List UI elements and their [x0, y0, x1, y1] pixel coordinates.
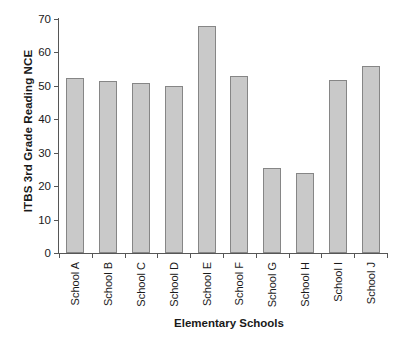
bar-slot — [125, 19, 158, 253]
y-axis-tick-label: 0 — [45, 247, 51, 259]
bar-slot — [190, 19, 223, 253]
bar-chart: ITBS 3rd Grade Reading NCE 7060504030201… — [0, 0, 408, 340]
x-axis-category-label: School I — [332, 262, 344, 302]
x-label-slot: School G — [256, 262, 289, 312]
bar-slot — [321, 19, 354, 253]
x-axis-category-label: School D — [168, 262, 180, 307]
x-axis-tick — [190, 253, 191, 258]
y-axis-tick-label: 70 — [38, 13, 51, 25]
x-label-slot: School D — [157, 262, 190, 312]
bar-slot — [256, 19, 289, 253]
x-axis-tick — [256, 253, 257, 258]
x-axis-tick — [92, 253, 93, 258]
bar-slot — [157, 19, 190, 253]
bar — [132, 83, 150, 253]
x-axis-tick — [157, 253, 158, 258]
x-axis-title: Elementary Schools — [0, 317, 408, 329]
y-axis-tick-label: 30 — [38, 147, 51, 159]
x-axis-tick — [289, 253, 290, 258]
y-axis-tick-label: 10 — [38, 214, 51, 226]
x-axis-category-label: School H — [299, 262, 311, 307]
x-axis-category-label: School B — [102, 262, 114, 306]
y-axis-tick-label: 60 — [38, 46, 51, 58]
x-label-slot: School J — [354, 262, 387, 312]
y-axis-tick-label: 20 — [38, 180, 51, 192]
x-label-slot: School C — [125, 262, 158, 312]
x-axis-tick — [387, 253, 388, 258]
x-axis-category-label: School J — [365, 262, 377, 304]
plot-area: 706050403020100 — [59, 19, 387, 253]
y-axis-tick-label: 40 — [38, 113, 51, 125]
x-label-slot: School A — [59, 262, 92, 312]
bar — [66, 78, 84, 254]
x-axis-tick-labels: School ASchool BSchool CSchool DSchool E… — [59, 262, 387, 312]
x-label-slot: School H — [289, 262, 322, 312]
y-axis-title: ITBS 3rd Grade Reading NCE — [22, 11, 34, 251]
x-axis-tick — [223, 253, 224, 258]
x-axis-tick — [354, 253, 355, 258]
x-axis-tick — [321, 253, 322, 258]
bar — [329, 80, 347, 253]
bar-slot — [354, 19, 387, 253]
bar — [296, 173, 314, 253]
bar — [99, 81, 117, 253]
bar-slot — [92, 19, 125, 253]
bar-slot — [289, 19, 322, 253]
x-axis-category-label: School F — [233, 262, 245, 305]
bar — [198, 26, 216, 253]
x-axis-category-label: School C — [135, 262, 147, 307]
bar-slot — [59, 19, 92, 253]
x-axis-category-label: School A — [69, 262, 81, 305]
bar-series — [59, 19, 387, 253]
bar — [362, 66, 380, 253]
bar-slot — [223, 19, 256, 253]
y-axis-tick-label: 50 — [38, 80, 51, 92]
bar — [263, 168, 281, 253]
x-axis-category-label: School G — [266, 262, 278, 307]
x-axis-tick — [125, 253, 126, 258]
x-axis-tick — [59, 253, 60, 258]
x-label-slot: School E — [190, 262, 223, 312]
bar — [165, 86, 183, 253]
x-label-slot: School I — [321, 262, 354, 312]
x-axis-category-label: School E — [201, 262, 213, 306]
x-label-slot: School F — [223, 262, 256, 312]
x-label-slot: School B — [92, 262, 125, 312]
bar — [230, 76, 248, 253]
